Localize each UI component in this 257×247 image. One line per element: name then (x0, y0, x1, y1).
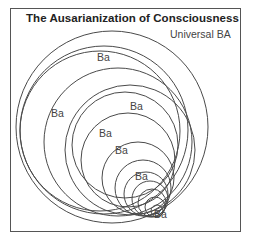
ba-label: Ba (115, 144, 128, 156)
universal-ba-circle (16, 31, 208, 223)
universal-ba-label: Universal BA (170, 28, 231, 40)
ba-circle (81, 113, 175, 207)
ba-label: Ba (154, 208, 167, 220)
ba-label: Ba (130, 100, 143, 112)
ba-label: Ba (99, 127, 112, 139)
ba-label: Ba (135, 170, 148, 182)
nested-circles-diagram: Universal BABaBaBaBaBaBaBa (0, 0, 257, 247)
label-group: Universal BABaBaBaBaBaBaBa (51, 28, 231, 220)
ba-label: Ba (97, 51, 110, 63)
ba-label: Ba (51, 107, 64, 119)
circle-group (16, 31, 208, 223)
